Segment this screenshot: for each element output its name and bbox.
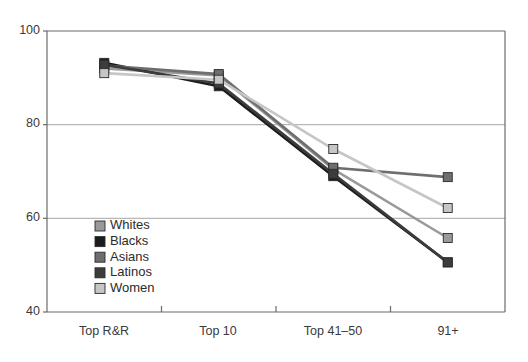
series-markers-latinos [100,60,453,267]
legend-swatch [95,268,105,278]
series-blacks [104,63,448,263]
series-line [104,66,448,177]
y-axis-labels: 100 80 60 40 [19,23,40,318]
series-markers-whites [100,64,453,243]
legend-label: Blacks [110,233,149,248]
series-asians [104,66,448,177]
y-tick-label: 100 [19,23,40,37]
data-point-marker [100,69,109,78]
data-point-marker [214,75,223,84]
legend-swatch [95,221,105,231]
data-point-marker [329,169,338,178]
series-line [104,63,448,263]
gridlines [47,125,505,219]
series-line [104,68,448,238]
series-markers-women [100,69,453,213]
y-tick-label: 60 [26,210,40,224]
data-point-marker [443,204,452,213]
data-series-group [100,58,453,267]
legend-item-latinos: Latinos [95,264,152,279]
data-point-marker [443,173,452,182]
series-line [104,65,448,263]
chart-canvas: 100 80 60 40 Top R&R Top 10 Top 41–50 91… [0,0,528,362]
legend-item-whites: Whites [95,217,150,232]
legend-label: Asians [110,249,150,264]
legend: WhitesBlacksAsiansLatinosWomen [95,217,155,294]
legend-label: Women [110,280,155,295]
series-markers-blacks [100,58,453,267]
x-axis-labels: Top R&R Top 10 Top 41–50 91+ [79,324,459,338]
series-latinos [104,65,448,263]
series-line [104,73,448,208]
legend-item-asians: Asians [95,249,150,264]
legend-swatch [95,252,105,262]
x-tick-label-3: 91+ [437,324,458,338]
x-tick-label-2: Top 41–50 [304,324,362,338]
data-point-marker [329,145,338,154]
line-chart: 100 80 60 40 Top R&R Top 10 Top 41–50 91… [0,0,528,362]
series-women [104,73,448,208]
legend-item-blacks: Blacks [95,233,149,248]
x-tick-marks [162,306,391,312]
series-whites [104,68,448,238]
legend-label: Latinos [110,264,152,279]
x-tick-label-0: Top R&R [79,324,129,338]
data-point-marker [443,234,452,243]
legend-swatch [95,237,105,247]
data-point-marker [443,258,452,267]
legend-item-women: Women [95,280,155,295]
legend-swatch [95,283,105,293]
legend-label: Whites [110,217,150,232]
y-tick-label: 80 [26,116,40,130]
data-point-marker [100,60,109,69]
x-tick-label-1: Top 10 [199,324,237,338]
y-tick-label: 40 [26,304,40,318]
